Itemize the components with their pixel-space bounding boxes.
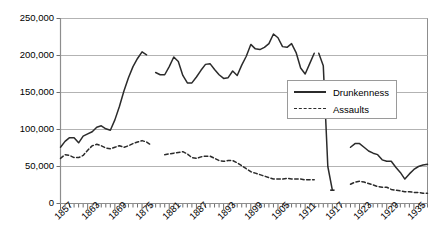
- y-tick-label: 200,000: [0, 50, 54, 60]
- solid-line-key: [294, 87, 326, 97]
- y-tick-label: 0: [0, 198, 54, 208]
- y-tick-label: 150,000: [0, 87, 54, 97]
- y-tick-label: 50,000: [0, 161, 54, 171]
- chart-container: 250,000200,000150,000100,00050,0000 1857…: [0, 0, 441, 249]
- legend-item-assaults: Assaults: [294, 101, 369, 117]
- chart-legend: Drunkenness Assaults: [287, 80, 397, 119]
- dashed-line-key: [294, 104, 326, 114]
- y-tick-label: 100,000: [0, 124, 54, 134]
- legend-label-assaults: Assaults: [333, 104, 369, 115]
- legend-label-drunkenness: Drunkenness: [333, 87, 389, 98]
- legend-item-drunkenness: Drunkenness: [294, 84, 389, 100]
- y-tick-label: 250,000: [0, 13, 54, 23]
